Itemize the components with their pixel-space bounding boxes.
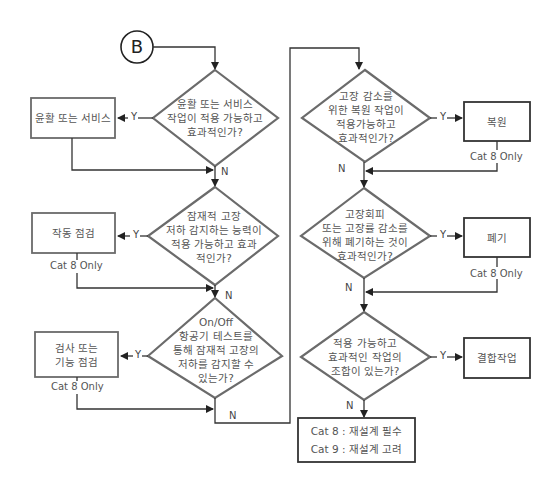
action-combination: 결합작업: [464, 338, 530, 378]
decision-restoration: 고장 감소를 위한 복원 작업이 적용가능하고 효과적인가?: [308, 88, 424, 146]
yes-label: Y: [440, 229, 446, 240]
action-lubrication: 윤활 또는 서비스: [31, 98, 115, 138]
action-discard: 폐기: [464, 218, 530, 257]
no-label: N: [346, 400, 353, 411]
no-label: N: [345, 282, 352, 293]
action-restoration: 복원: [464, 102, 530, 141]
cat8-note: Cat 8 Only: [50, 260, 103, 271]
decision-potential-failure: 잠재적 고장 저하 감지하는 능력이 적용 가능하고 효과 적인가?: [150, 208, 278, 266]
yes-label: Y: [135, 349, 141, 360]
cat8-note: Cat 8 Only: [470, 268, 523, 279]
yes-label: Y: [131, 111, 137, 122]
decision-lubrication: 윤활 또는 서비스 작업이 적용 가능하고 효과적인가?: [160, 96, 270, 140]
connector-b-label: B: [120, 36, 154, 57]
yes-label: Y: [440, 111, 446, 122]
redesign-box-line1: Cat 8 : 재설계 필수: [298, 422, 415, 439]
no-label: N: [338, 163, 345, 174]
decision-combination: 적용 가능하고 효과적인 작업의 조합이 있는가?: [310, 334, 420, 380]
decision-onoff-test: On/Off 항공기 테스트를 통해 잠재적 고장의 저하를 감지할 수 있는가…: [160, 314, 272, 386]
cat8-note: Cat 8 Only: [51, 381, 104, 392]
action-operational-check: 작동 점검: [32, 213, 115, 253]
redesign-box-line2: Cat 9 : 재설계 고려: [298, 440, 415, 457]
action-inspection: 검사 또는 기능 점검: [35, 332, 118, 377]
no-label: N: [221, 166, 228, 177]
yes-label: Y: [440, 350, 446, 361]
no-label: N: [229, 410, 236, 421]
yes-label: Y: [133, 229, 139, 240]
decision-discard: 고장회피 또는 고장률 감소를 위해 폐기하는 것이 효과적인가?: [305, 206, 425, 264]
cat8-note: Cat 8 Only: [470, 151, 523, 162]
no-label: N: [225, 290, 232, 301]
